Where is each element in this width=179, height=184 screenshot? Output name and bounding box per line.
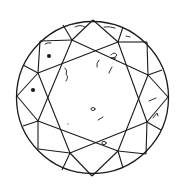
twinning-wisp-icon: [65, 68, 68, 81]
feather-icon: [149, 98, 156, 101]
pinpoint-icon: [102, 141, 106, 144]
inclusion-marks: [31, 26, 158, 145]
pinpoint-icon: [67, 123, 68, 124]
crystal-icon: [47, 54, 51, 58]
star-square-b: [38, 42, 147, 153]
feather-icon: [109, 67, 112, 73]
diamond-plot: [0, 0, 179, 184]
feather-icon: [126, 36, 130, 37]
feather-icon: [104, 27, 115, 28]
diamond-diagram-svg: [0, 0, 179, 184]
feather-icon: [75, 26, 85, 28]
feather-icon: [97, 60, 99, 67]
cloud-icon: [111, 53, 117, 59]
crystal-icon: [31, 88, 35, 92]
pinpoint-icon: [91, 108, 95, 111]
star-square-a: [38, 40, 148, 151]
feather-icon: [98, 117, 103, 120]
feather-icon: [45, 43, 51, 44]
